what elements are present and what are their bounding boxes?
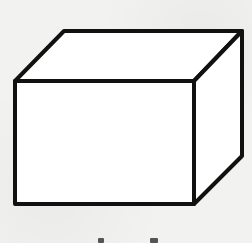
cropped-caption-mark xyxy=(150,238,158,243)
front-face xyxy=(15,81,194,204)
cropped-caption-mark xyxy=(98,238,104,243)
cuboid-figure xyxy=(0,0,252,243)
